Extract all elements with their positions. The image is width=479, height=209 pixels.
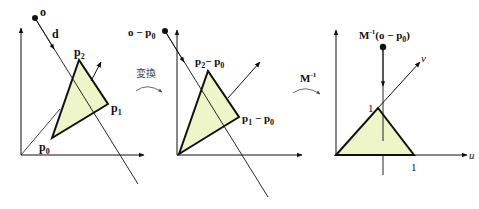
p2-label: p2 bbox=[74, 45, 85, 61]
panel-barycentric: M-1(o − p0) v u 1 1 bbox=[336, 28, 475, 175]
v-axis bbox=[378, 62, 420, 108]
v-axis-label: v bbox=[421, 52, 426, 64]
panel-world-space: o d p2 p1 p0 bbox=[21, 5, 144, 184]
transform-label: 変換 bbox=[136, 67, 156, 79]
v-one-label: 1 bbox=[368, 102, 374, 114]
triangle bbox=[52, 60, 108, 138]
ray-origin-point bbox=[162, 28, 168, 34]
origin-label: M-1(o − p0) bbox=[359, 28, 410, 44]
curved-arrow-icon bbox=[293, 89, 320, 94]
direction-label: d bbox=[52, 27, 59, 41]
p2-label: p2− p0 bbox=[195, 55, 224, 70]
origin-label: o bbox=[40, 5, 46, 19]
ray-triangle-diagram: o d p2 p1 p0 変換 o − p0 p2− p0 p1 − p0 M-… bbox=[0, 0, 479, 209]
triangle bbox=[179, 71, 239, 154]
u-axis-label: u bbox=[469, 149, 475, 161]
p1-label: p1 − p0 bbox=[242, 112, 274, 127]
ray-direction-arrow bbox=[165, 31, 184, 62]
ray-origin-point bbox=[380, 44, 386, 50]
p1-label: p1 bbox=[111, 101, 122, 117]
curved-arrow-icon bbox=[136, 87, 162, 92]
panel-translated: o − p0 p2− p0 p1 − p0 bbox=[128, 26, 302, 197]
normal-arrow bbox=[228, 62, 260, 98]
inverse-matrix-label: M-1 bbox=[300, 71, 317, 84]
p0-label: p0 bbox=[39, 140, 50, 156]
triangle bbox=[336, 108, 414, 155]
ray-origin-point bbox=[32, 15, 38, 21]
transition-transform: 変換 bbox=[136, 67, 162, 92]
transition-inverse-matrix: M-1 bbox=[293, 71, 320, 94]
u-one-label: 1 bbox=[411, 161, 417, 173]
origin-label: o − p0 bbox=[128, 26, 155, 41]
normal-arrow bbox=[91, 62, 101, 81]
